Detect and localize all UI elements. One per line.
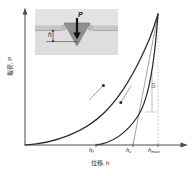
y-axis-label: 载荷, P [5,45,14,89]
chart-canvas [0,0,196,176]
x-axis-arrowhead [181,143,189,148]
inset-depth-label: h [48,31,52,38]
inset-surface-right [93,26,118,31]
x-axis-label: 位移, h [60,158,140,167]
inset-load-label: P [78,11,83,18]
tick-label-hc: hc [126,147,132,154]
unloading-direction-arrow-icon [119,86,131,104]
tick-label-hmax: hmax [148,147,160,154]
load-displacement-figure: 载荷, P 位移, h hf hc hmax S P h [0,0,196,176]
stiffness-label: S [151,82,156,89]
y-axis-arrowhead [23,8,28,15]
loading-direction-arrow-icon [89,84,105,100]
stiffness-tangent-line [133,14,158,145]
tick-label-hf: hf [89,147,94,154]
inset-surface-left [35,26,61,31]
